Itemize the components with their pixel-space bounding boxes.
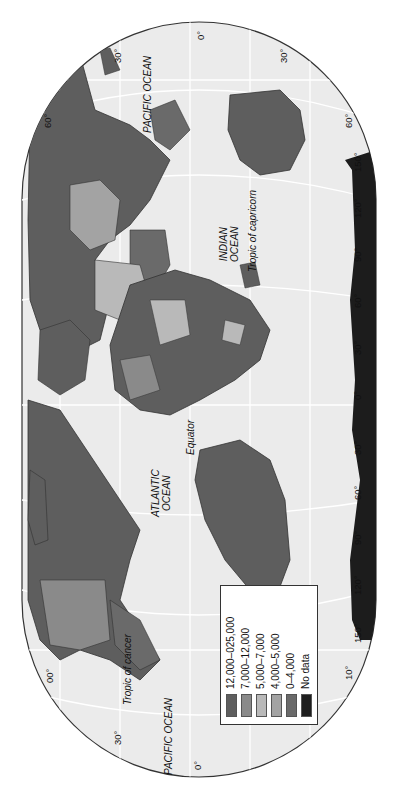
legend-label-1: 7,000–12,000 — [240, 628, 251, 689]
legend-swatch-3 — [271, 694, 282, 717]
world-map — [0, 0, 395, 797]
tick-bottom-30: 30° — [112, 731, 123, 745]
legend-label-3: 4,000–5,000 — [270, 633, 281, 689]
tick-top-0: 0° — [195, 31, 206, 40]
tick-lon-150-east: 150° — [352, 152, 363, 172]
indian-line2: OCEAN — [229, 226, 240, 262]
map-legend: 12,000–025,000 7,000–12,000 5,000–7,000 … — [220, 585, 318, 725]
atlantic-line1: ATLANTIC — [150, 469, 161, 517]
legend-swatch-0 — [226, 694, 237, 717]
tick-right-60: 60° — [343, 114, 354, 128]
tick-lon-60-west: 60° — [352, 486, 363, 500]
tropic-of-capricorn-label: Tropic of capricorn — [247, 190, 258, 272]
tick-top-30-right: 30° — [278, 49, 289, 63]
legend-label-4: 0–4,000 — [285, 653, 296, 689]
atlantic-line2: OCEAN — [161, 469, 172, 517]
tick-lon-30-east: 30° — [352, 341, 363, 355]
tick-lon-30-west: 30° — [352, 441, 363, 455]
legend-label-5: No data — [300, 654, 311, 689]
legend-label-0: 12,000–025,000 — [225, 617, 236, 689]
tick-bottom-0: 0° — [192, 761, 203, 770]
indian-line1: INDIAN — [218, 226, 229, 262]
tick-lon-10: 10° — [343, 666, 354, 680]
tick-north-00: 00° — [44, 669, 55, 683]
tick-lon-0: 0° — [352, 391, 363, 400]
pacific-ocean-top-label: PACIFIC OCEAN — [142, 56, 153, 133]
tick-lon-120-east: 120° — [352, 198, 363, 218]
atlantic-ocean-label: ATLANTIC OCEAN — [150, 469, 172, 517]
legend-swatch-5 — [301, 694, 312, 717]
legend-swatch-4 — [286, 694, 297, 717]
tick-top-30-left: 30° — [112, 49, 123, 63]
usa — [40, 580, 110, 650]
equator-label: Equator — [185, 420, 196, 455]
tick-lon-120-west: 120° — [352, 575, 363, 595]
tropic-of-cancer-label: Tropic of cancer — [122, 634, 133, 705]
tick-lon-60-east: 60° — [352, 294, 363, 308]
tick-lon-90-west: 90° — [352, 531, 363, 545]
tick-north-60: 60° — [42, 114, 53, 128]
indian-ocean-label: INDIAN OCEAN — [218, 226, 240, 262]
tick-lon-150-west: 150° — [352, 623, 363, 643]
legend-swatch-2 — [256, 694, 267, 717]
pacific-ocean-bottom-label: PACIFIC OCEAN — [163, 698, 174, 775]
tick-lon-90-east: 90° — [352, 248, 363, 262]
legend-swatch-1 — [241, 694, 252, 717]
legend-label-2: 5,000–7,000 — [255, 633, 266, 689]
